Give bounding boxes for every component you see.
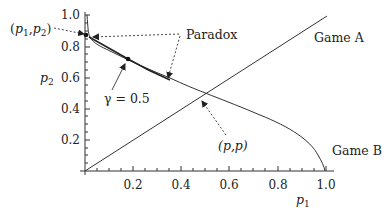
y-tick-label: 0.6 xyxy=(61,71,80,85)
x-tick-label: 0.2 xyxy=(123,178,142,192)
y-tick-labels: 0.2 0.4 0.6 0.8 1.0 xyxy=(61,8,80,147)
gamma-point xyxy=(126,57,131,62)
p1p2-label: (p1,p2) xyxy=(10,21,51,38)
chart: 0.2 0.4 0.6 0.8 1.0 0.2 0.4 0.6 0.8 1.0 … xyxy=(0,0,391,213)
y-tick-label: 0.8 xyxy=(61,40,80,54)
x-tick-label: 0.8 xyxy=(268,178,287,192)
gamma-label: γ = 0.5 xyxy=(104,91,150,106)
y-tick-label: 1.0 xyxy=(61,8,80,22)
y-tick-label: 0.2 xyxy=(61,133,80,147)
game-a-label: Game A xyxy=(314,30,365,45)
x-axis-label: p1 xyxy=(296,192,310,209)
y-axis-label: p2 xyxy=(40,70,54,87)
paradox-label: Paradox xyxy=(186,27,237,42)
pp-arrow xyxy=(202,101,226,135)
p1p2-point xyxy=(84,33,89,38)
x-tick-label: 0.4 xyxy=(171,178,190,192)
x-tick-label: 1.0 xyxy=(316,178,335,192)
y-tick-label: 0.4 xyxy=(61,102,80,116)
x-tick-labels: 0.2 0.4 0.6 0.8 1.0 xyxy=(123,178,335,192)
x-ticks xyxy=(97,166,326,171)
pp-label: (p,p) xyxy=(218,138,248,153)
gamma-arrow xyxy=(112,64,125,90)
p1p2-arrow xyxy=(54,28,84,34)
x-tick-label: 0.6 xyxy=(219,178,238,192)
paradox-arrow-right xyxy=(168,36,180,78)
game-b-label: Game B xyxy=(332,143,382,158)
paradox-arrow-left xyxy=(93,34,179,37)
